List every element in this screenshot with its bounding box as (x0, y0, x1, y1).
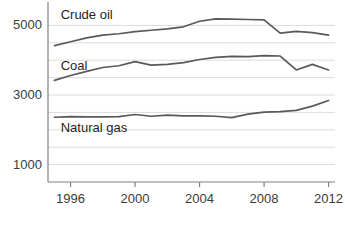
series-label-coal: Coal (61, 58, 88, 73)
x-tick-marks-group (71, 182, 329, 187)
series-line-natural-gas (54, 101, 328, 118)
gridlines-group (48, 25, 335, 164)
y-tick-label-3000: 3000 (13, 87, 42, 102)
x-tick-label-2008: 2008 (238, 191, 290, 206)
y-tick-label-1000: 1000 (13, 157, 42, 172)
x-tick-label-1996: 1996 (45, 191, 97, 206)
x-tick-label-2004: 2004 (174, 191, 226, 206)
x-tick-label-2000: 2000 (109, 191, 161, 206)
series-line-crude-oil (54, 19, 328, 46)
x-tick-label-2012: 2012 (303, 191, 345, 206)
line-chart: 100030005000 19962000200420082012 Crude … (0, 0, 345, 226)
series-lines-group (54, 19, 328, 118)
axis-lines-group (48, 2, 335, 182)
series-label-natural-gas: Natural gas (61, 120, 127, 135)
series-label-crude-oil: Crude oil (61, 7, 113, 22)
y-tick-label-5000: 5000 (13, 17, 42, 32)
series-line-coal (54, 56, 328, 81)
